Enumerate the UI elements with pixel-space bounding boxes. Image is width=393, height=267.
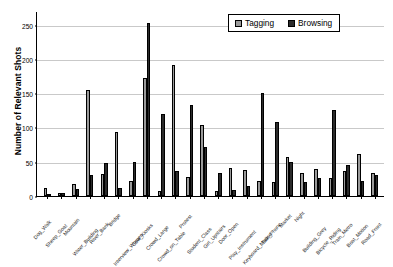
bar-browsing (289, 162, 293, 196)
bar-browsing (247, 186, 251, 196)
bar-browsing (175, 171, 179, 196)
x-axis-labels: Dog_WalkSheep_GoatMountainWater_Building… (36, 199, 384, 265)
x-label-cell: Keyboard_Mouse (253, 199, 267, 265)
bar-group (254, 12, 268, 196)
bar-group (325, 12, 339, 196)
bar-browsing (261, 93, 265, 196)
plot-area: 050100150200250 (36, 12, 384, 197)
chart-legend: Tagging Browsing (228, 14, 340, 32)
bar-group (297, 12, 311, 196)
bar-group (111, 12, 125, 196)
bar-group (225, 12, 239, 196)
x-label-cell: Student_Class (196, 199, 210, 265)
bar-group (183, 12, 197, 196)
bar-group (240, 12, 254, 196)
bar-browsing (190, 105, 194, 196)
legend-item-browsing: Browsing (288, 18, 332, 28)
legend-swatch-tagging (235, 20, 242, 27)
bar-tagging (115, 132, 119, 196)
bar-browsing (133, 162, 137, 196)
x-label-cell: River_Bank (96, 199, 110, 265)
bar-browsing (346, 165, 350, 196)
x-label-cell: Train_Metro (339, 199, 353, 265)
bar-group (40, 12, 54, 196)
x-label-cell: Boat_Motion (354, 199, 368, 265)
bar-browsing (361, 181, 365, 196)
bar-browsing (218, 173, 222, 196)
legend-label-tagging: Tagging (245, 18, 274, 28)
x-label-cell: Bicycle_Riding (325, 199, 339, 265)
bar-browsing (204, 147, 208, 196)
bar-browsing (275, 122, 279, 196)
bar-browsing (90, 175, 94, 196)
y-tick-label-0: 0 (29, 194, 33, 201)
bar-group (282, 12, 296, 196)
legend-label-browsing: Browsing (298, 18, 332, 28)
x-label-cell: Talk_Phone (268, 199, 282, 265)
bar-browsing (375, 175, 379, 196)
bar-group (69, 12, 83, 196)
y-tick-mark-0 (35, 197, 38, 198)
bar-browsing (304, 182, 308, 196)
x-label-cell: Market (282, 199, 296, 265)
y-tick-label-250: 250 (22, 22, 33, 29)
bar-group (368, 12, 382, 196)
x-label-cell: Cow_Kiosks (139, 199, 153, 265)
x-label-cell: Crowd_on_Table (168, 199, 182, 265)
bar-series-container (37, 12, 384, 196)
bar-group (311, 12, 325, 196)
bar-group (268, 12, 282, 196)
bar-browsing (147, 23, 151, 196)
bar-browsing (161, 114, 165, 196)
bar-group (168, 12, 182, 196)
bar-group (97, 12, 111, 196)
x-label-cell: Dog_Walk (39, 199, 53, 265)
bar-group (126, 12, 140, 196)
x-label-cell: Interview_Women (125, 199, 139, 265)
bar-group (339, 12, 353, 196)
y-tick-label-150: 150 (22, 91, 33, 98)
bar-group (354, 12, 368, 196)
bar-browsing (318, 178, 322, 196)
legend-item-tagging: Tagging (235, 18, 274, 28)
bar-group (197, 12, 211, 196)
bar-group (154, 12, 168, 196)
bar-group (211, 12, 225, 196)
x-label-cell: Road_Front (368, 199, 382, 265)
bar-browsing (76, 189, 80, 196)
y-axis-title: Number of Relevant Shots (13, 21, 23, 181)
x-label-cell: Night (296, 199, 310, 265)
y-tick-label-100: 100 (22, 125, 33, 132)
bar-browsing (104, 163, 108, 196)
bar-chart: Number of Relevant Shots 050100150200250… (0, 0, 393, 267)
y-tick-label-200: 200 (22, 56, 33, 63)
bar-group (83, 12, 97, 196)
x-label-cell: Girl_Upstairs (211, 199, 225, 265)
bar-group (54, 12, 68, 196)
bar-browsing (332, 110, 336, 196)
legend-swatch-browsing (288, 20, 295, 27)
bar-browsing (118, 188, 122, 196)
y-tick-label-50: 50 (26, 159, 33, 166)
bar-group (140, 12, 154, 196)
